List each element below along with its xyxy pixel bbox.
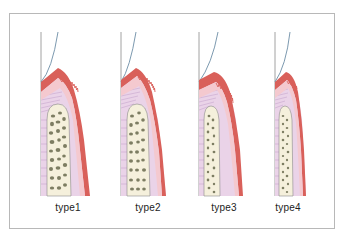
panel-label-type2: type2 xyxy=(118,202,178,213)
panel-type3: type3 xyxy=(196,0,256,200)
panel-label-type4: type4 xyxy=(258,202,318,213)
panel-label-type1: type1 xyxy=(38,202,98,213)
panel-type2: type2 xyxy=(118,0,178,200)
periodontium-type1-illustration xyxy=(38,0,98,200)
panel-type1: type1 xyxy=(38,0,98,200)
periodontium-type4-illustration xyxy=(272,0,332,200)
periodontium-type2-illustration xyxy=(118,0,178,200)
periodontium-type3-illustration xyxy=(196,0,256,200)
panel-label-type3: type3 xyxy=(194,202,254,213)
panel-type4: type4 xyxy=(272,0,332,200)
